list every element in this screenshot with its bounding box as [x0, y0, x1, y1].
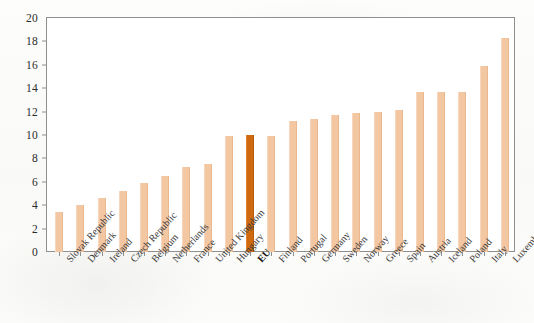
bar-chart: 20181614121086420 Slovak RepublicDenmark…	[0, 0, 534, 323]
y-axis-tick-mark	[42, 205, 47, 206]
y-axis-tick-label: 20	[26, 12, 38, 24]
bar[interactable]	[331, 115, 339, 252]
x-axis-label: Norway	[361, 257, 369, 264]
plot-area: 20181614121086420	[47, 18, 514, 252]
bar[interactable]	[352, 113, 360, 252]
x-axis-label: Ireland	[107, 257, 115, 264]
y-axis-tick-label: 4	[32, 199, 38, 211]
y-axis-tick-mark	[42, 88, 47, 89]
y-axis-tick-mark	[42, 41, 47, 42]
bar[interactable]	[55, 212, 63, 252]
x-axis-tick-mark	[59, 252, 60, 256]
x-axis-label: Sweden	[340, 257, 348, 264]
y-axis-tick-mark	[42, 181, 47, 182]
x-axis-label: Germany	[319, 257, 327, 264]
bar[interactable]	[501, 38, 509, 252]
bar[interactable]	[416, 92, 424, 252]
x-axis-label: United Kingdom	[213, 257, 221, 264]
y-axis-tick-label: 8	[32, 152, 38, 164]
bar[interactable]	[458, 92, 466, 252]
x-axis-label: Hungary	[234, 257, 242, 264]
y-axis-tick-label: 10	[26, 129, 38, 141]
y-axis-tick-label: 14	[26, 82, 38, 94]
x-axis-label: France	[191, 257, 199, 264]
x-axis-label: Portugal	[298, 257, 306, 264]
y-axis-tick-label: 0	[32, 246, 38, 258]
x-axis-label: Netherlands	[170, 257, 178, 264]
x-axis-label: EU	[255, 257, 263, 264]
x-axis-label: Iceland	[446, 257, 454, 264]
y-axis-tick-label: 2	[32, 223, 38, 235]
y-axis-tick-mark	[42, 64, 47, 65]
bar[interactable]	[289, 121, 297, 252]
x-axis-label: Denmark	[85, 257, 93, 264]
x-axis-label: Italy	[489, 257, 497, 264]
x-axis-label: Finland	[276, 257, 284, 264]
x-axis-label: Belgium	[149, 257, 157, 264]
y-axis-tick-mark	[42, 111, 47, 112]
y-axis-tick-label: 12	[26, 106, 38, 118]
bar[interactable]	[310, 119, 318, 252]
x-axis-label: Czech Republic	[128, 257, 136, 264]
y-axis-tick-label: 16	[26, 59, 38, 71]
x-axis-label: Slovak Republic	[64, 257, 72, 264]
bar[interactable]	[480, 66, 488, 252]
x-axis-label: Spain	[404, 257, 412, 264]
bar[interactable]	[395, 110, 403, 252]
bar[interactable]	[437, 92, 445, 252]
x-axis-label: Austria	[425, 257, 433, 264]
x-axis-label: Poland	[467, 257, 475, 264]
y-axis-tick-mark	[42, 158, 47, 159]
y-axis-tick-label: 6	[32, 176, 38, 188]
y-axis-tick-label: 18	[26, 35, 38, 47]
y-axis-tick-mark	[42, 135, 47, 136]
y-axis-tick-mark	[42, 228, 47, 229]
bar[interactable]	[374, 112, 382, 252]
x-axis-label: Greece	[383, 257, 391, 264]
bar[interactable]	[267, 136, 275, 252]
x-axis-label: Luxembourg	[510, 257, 518, 264]
